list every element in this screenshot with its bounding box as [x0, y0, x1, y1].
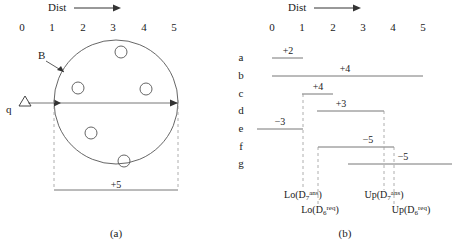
object-marker	[140, 83, 152, 95]
row-label-f: f	[234, 141, 248, 152]
row-label-e: e	[234, 123, 248, 134]
region-b-circle	[54, 40, 178, 164]
bound-close: )	[335, 204, 338, 215]
row-label-b: b	[234, 70, 248, 81]
object-marker	[115, 46, 127, 58]
row-value-e: −3	[260, 117, 300, 127]
axis-tick-b-2: 2	[325, 22, 341, 33]
row-label-g: g	[234, 158, 248, 169]
figure-b-caption: (b)	[315, 228, 375, 239]
object-marker	[72, 82, 84, 94]
bound-label-up-d7: Up(D7ans)	[349, 190, 419, 202]
axis-tick-b-5: 5	[415, 22, 431, 33]
bound-text: Lo(D	[301, 204, 323, 215]
bound-label-up-d6: Up(D6req)	[376, 205, 446, 217]
row-label-c: c	[234, 88, 248, 99]
bound-label-lo-d6: Lo(D6req)	[285, 205, 355, 217]
row-label-d: d	[234, 105, 248, 116]
bound-sup: ans	[391, 189, 400, 197]
row-value-f: −5	[348, 135, 388, 145]
bound-label-lo-d7: Lo(D7ans)	[268, 190, 338, 202]
object-marker	[118, 155, 130, 167]
axis-tick-b-0: 0	[264, 22, 280, 33]
row-label-a: a	[234, 52, 248, 63]
figure-a-canvas	[0, 0, 230, 249]
span-arrow-a	[28, 100, 178, 107]
row-value-c: +4	[298, 82, 338, 92]
bound-text: Up(D	[392, 204, 415, 215]
dist-axis-label-b: Dist	[288, 2, 306, 13]
dist-arrow-b	[314, 5, 361, 12]
row-value-a: +2	[268, 46, 308, 56]
axis-tick-a-4: 4	[136, 22, 152, 33]
region-b-label: B	[38, 50, 45, 61]
axis-tick-b-1: 1	[294, 22, 310, 33]
bound-close: )	[427, 204, 430, 215]
query-triangle-icon	[17, 94, 33, 108]
bound-sup: ans	[309, 189, 318, 197]
figure-a-caption: (a)	[86, 228, 146, 239]
object-marker	[85, 127, 97, 139]
axis-tick-a-1: 1	[44, 22, 60, 33]
dist-arrow-a	[74, 5, 121, 12]
figure-a: Dist 0 1 2 3 4 5 B q +5 (a)	[0, 0, 230, 249]
query-point-label: q	[6, 104, 12, 115]
axis-tick-a-0: 0	[14, 22, 30, 33]
row-value-g: −5	[383, 152, 423, 162]
bound-close: )	[400, 189, 403, 200]
bound-text: Lo(D	[284, 189, 306, 200]
bound-text: Up(D	[365, 189, 388, 200]
axis-tick-a-2: 2	[75, 22, 91, 33]
bound-sup: req	[418, 204, 427, 212]
region-b-pointer	[46, 61, 64, 72]
axis-tick-a-3: 3	[105, 22, 121, 33]
axis-tick-a-5: 5	[166, 22, 182, 33]
row-value-d: +3	[321, 99, 361, 109]
dist-axis-label-a: Dist	[48, 2, 66, 13]
axis-tick-b-3: 3	[355, 22, 371, 33]
span-bracket-a	[54, 100, 178, 190]
figure-b: Dist 0 1 2 3 4 5 a b c d e f g +2 +4 +4 …	[225, 0, 452, 249]
row-value-b: +4	[325, 64, 365, 74]
span-value-label-a: +5	[96, 180, 136, 190]
bound-close: )	[319, 189, 322, 200]
axis-tick-b-4: 4	[385, 22, 401, 33]
